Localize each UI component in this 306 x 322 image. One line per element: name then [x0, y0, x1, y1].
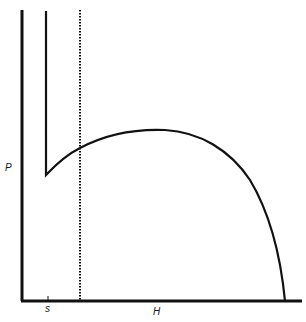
tick-label-s: s: [45, 303, 50, 314]
y-axis-label: P: [5, 162, 12, 173]
main-curve: [46, 11, 285, 301]
chart-canvas: [0, 0, 306, 322]
x-axis-label: H: [153, 306, 160, 317]
